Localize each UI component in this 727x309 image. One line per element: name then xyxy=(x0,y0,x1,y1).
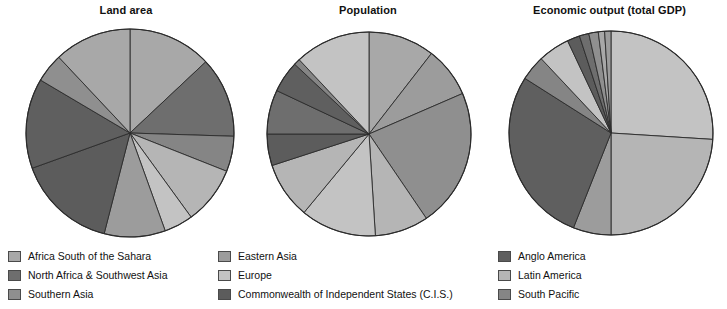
legend-swatch-europe xyxy=(218,270,231,281)
pie-canvas xyxy=(6,0,246,244)
legend-label: Southern Asia xyxy=(28,288,93,300)
legend-label: North Africa & Southwest Asia xyxy=(28,269,167,281)
legend-label: South Pacific xyxy=(518,288,579,300)
legend-label: Europe xyxy=(238,269,272,281)
chart-legend: Africa South of the SaharaNorth Africa &… xyxy=(0,244,727,309)
legend-item-southern-asia: Southern Asia xyxy=(8,286,167,302)
legend-label: Commonwealth of Independent States (C.I.… xyxy=(238,288,453,300)
legend-swatch-latin-america xyxy=(498,270,511,281)
legend-swatch-commonwealth-of-independent-states-cis xyxy=(218,289,231,300)
pie-chart-economic-output-total-gdp: Economic output (total GDP) xyxy=(492,0,727,244)
legend-item-anglo-america: Anglo America xyxy=(498,248,586,264)
legend-label: Latin America xyxy=(518,269,582,281)
pie-slice-europe xyxy=(611,31,713,139)
legend-column-2: Eastern AsiaEuropeCommonwealth of Indepe… xyxy=(218,248,453,305)
pie-canvas xyxy=(492,0,727,244)
pie-canvas xyxy=(252,0,484,244)
legend-column-3: Anglo AmericaLatin AmericaSouth Pacific xyxy=(498,248,586,305)
legend-swatch-eastern-asia xyxy=(218,251,231,262)
pie-slice-latin-america xyxy=(611,133,713,235)
legend-label: Eastern Asia xyxy=(238,250,297,262)
legend-column-1: Africa South of the SaharaNorth Africa &… xyxy=(8,248,167,305)
legend-item-eastern-asia: Eastern Asia xyxy=(218,248,453,264)
legend-item-south-pacific: South Pacific xyxy=(498,286,586,302)
legend-swatch-north-africa-southwest-asia xyxy=(8,270,21,281)
pie-chart-land-area: Land area xyxy=(6,0,246,244)
legend-item-north-africa-southwest-asia: North Africa & Southwest Asia xyxy=(8,267,167,283)
legend-label: Anglo America xyxy=(518,250,586,262)
legend-item-commonwealth-of-independent-states-cis: Commonwealth of Independent States (C.I.… xyxy=(218,286,453,302)
legend-swatch-anglo-america xyxy=(498,251,511,262)
legend-swatch-africa-south-of-the-sahara xyxy=(8,251,21,262)
legend-item-europe: Europe xyxy=(218,267,453,283)
pie-charts-row: Land areaPopulationEconomic output (tota… xyxy=(0,0,727,244)
legend-swatch-south-pacific xyxy=(498,289,511,300)
pie-chart-population: Population xyxy=(252,0,484,244)
legend-label: Africa South of the Sahara xyxy=(28,250,151,262)
legend-swatch-southern-asia xyxy=(8,289,21,300)
legend-item-latin-america: Latin America xyxy=(498,267,586,283)
legend-item-africa-south-of-the-sahara: Africa South of the Sahara xyxy=(8,248,167,264)
